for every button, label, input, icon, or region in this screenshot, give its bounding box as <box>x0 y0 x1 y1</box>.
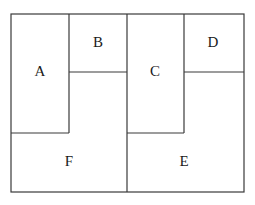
region-label-b: B <box>93 34 103 50</box>
region-label-a: A <box>35 63 46 79</box>
region-label-f: F <box>65 153 73 169</box>
region-label-e: E <box>179 153 188 169</box>
region-label-d: D <box>208 34 219 50</box>
region-label-c: C <box>150 63 160 79</box>
partition-diagram: A B C D F E <box>0 0 255 205</box>
